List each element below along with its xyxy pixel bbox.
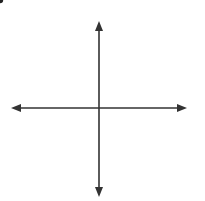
coordinate-plane [0,0,205,201]
y-axis-down-arrow-icon [95,187,103,197]
plotted-point [0,0,3,3]
x-axis-right-arrow-icon [177,104,187,112]
point-marker [0,0,3,3]
x-axis-left-arrow-icon [11,104,21,112]
y-axis [95,21,103,197]
y-axis-up-arrow-icon [95,21,103,31]
